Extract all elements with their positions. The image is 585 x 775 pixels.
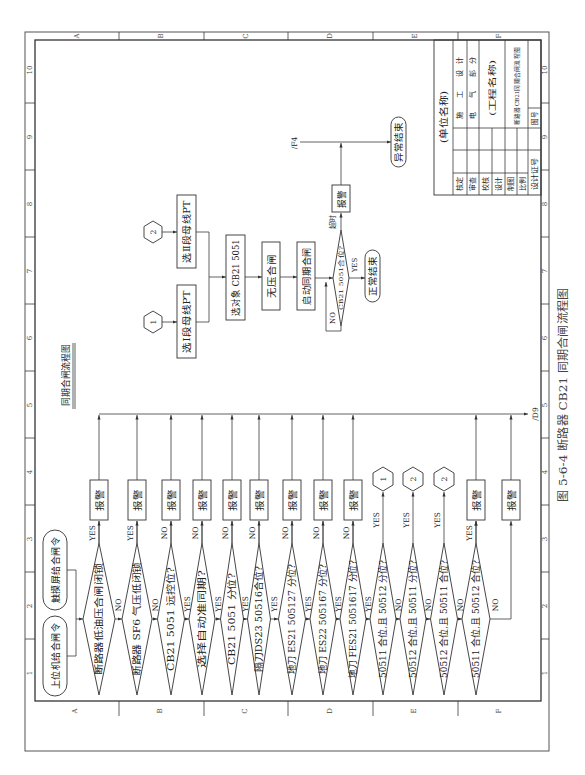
drawing-number-label: 图号 [531, 112, 539, 125]
zone-number: 9 [541, 135, 549, 139]
chain-connector-hexagons: 1 2 2 [373, 467, 454, 491]
branch-label: NO [424, 599, 433, 612]
zone-letter: E [411, 33, 419, 38]
exit-label: YES [372, 512, 381, 529]
zone-number: 4 [541, 469, 549, 474]
zone-number: 5 [26, 403, 34, 407]
decision-text: 地刀 ES22 505167 分位? [317, 564, 328, 674]
zone-number: 10 [26, 66, 34, 75]
zone-letter: E [410, 708, 418, 713]
decision-text: 50512 合位,且 50511 合位? [438, 560, 449, 678]
start-nodes: 上位机给合闸令 触摸屏给合闸令 [43, 530, 83, 696]
zone-letter: B [157, 33, 165, 38]
branch-label: NO [491, 599, 500, 612]
branch-label: YES [334, 596, 343, 613]
decision-text: 隔刀DS23 50516合位? [253, 566, 264, 672]
branch-label: YES [304, 596, 313, 613]
zone-number: 3 [26, 537, 34, 541]
select-object-label: 选对象 CB21 5051 [230, 240, 241, 316]
branch-label: NO [114, 599, 123, 612]
zone-number: 8 [541, 202, 549, 206]
zone-strip-left: 10 9 8 7 6 5 4 3 2 1 [25, 66, 35, 676]
alarm-collector: /D9 [99, 407, 540, 480]
exit-label: NO [191, 527, 200, 540]
sign-row-label: 审查 [468, 177, 477, 191]
discipline: 电 气 部分 [468, 57, 477, 119]
zone-strip-bottom: A B C D E F [71, 701, 503, 716]
sign-row-label: 比例 [518, 177, 527, 191]
zone-strip-top: A B C D E F [73, 32, 503, 40]
zone-number: 9 [26, 135, 34, 139]
zone-number: 10 [541, 66, 549, 75]
alarm-box-label: 报警 [132, 489, 143, 511]
decision-text: 地刀 FES21 5051617 分位? [347, 560, 358, 678]
org-name: (单位名称) [438, 91, 449, 143]
start-sync-close-label: 启动同期合闸 [301, 247, 312, 305]
alarm-box-label: 报警 [197, 489, 208, 511]
design-stage: 施 工 设计 [455, 57, 464, 119]
alarm-box-label: 报警 [254, 489, 265, 511]
exit-label: NO [312, 527, 321, 540]
zone-number: 8 [26, 202, 34, 206]
pt-sync-flow: 1 选Ⅰ段母线PT 2 选Ⅱ段母线PT 选对象 CB21 5051 无压合闸 启… [144, 117, 406, 358]
exit-label: YES [402, 512, 411, 529]
sign-row-label: 校核 [481, 177, 490, 191]
zone-number: 1 [541, 671, 549, 675]
engineering-drawing-page: A B C D E F A B C D E F 10 9 8 7 6 5 4 3 [0, 0, 585, 775]
sign-row-label: 设计 [494, 177, 503, 191]
exit-label: NO [281, 527, 290, 540]
zone-number: 7 [26, 269, 34, 273]
exit-label: YES [126, 525, 135, 542]
zone-number: 6 [541, 335, 549, 340]
branch-label: YES [270, 596, 279, 613]
abnormal-end-label: 异常结束 [393, 122, 404, 162]
decision-text: 断路器低油压合闸闭锁 [93, 563, 104, 675]
zone-letter: D [326, 33, 334, 39]
title-underline [73, 343, 75, 409]
figure-caption: 图 5-6-4 断路器 CB21 同期合闸流程图 [556, 288, 570, 502]
branch-label: YES [183, 596, 192, 613]
decision-text: 断路器 SF6 气压低闭锁 [131, 562, 142, 676]
alarm-box-label: 报警 [227, 489, 238, 511]
zone-strip-right: 10 9 8 7 6 5 4 3 2 1 [541, 66, 549, 676]
zone-letter: F [495, 708, 503, 713]
zone-number: 6 [26, 335, 34, 340]
zone-letter: A [71, 708, 79, 715]
decision-text: 50512 合位,且 50511 分位? [407, 560, 418, 678]
connector-hexagon-label: 2 [149, 229, 158, 234]
decision-text: 50511 合位,且 50512 分位? [377, 560, 388, 678]
offpage-ref-f4: /F4 [290, 137, 299, 150]
select-bus1-pt-label: 选Ⅰ段母线PT [181, 290, 192, 353]
breaker-closed-decision-text: CB21 5051合位? [337, 246, 345, 310]
branch-label: YES [241, 596, 250, 613]
drawing-title: 同期合闸流程图 [60, 344, 71, 406]
dead-bus-close-label: 无压合闸 [266, 254, 277, 298]
zone-number: 2 [541, 604, 549, 608]
decision-text: CB21 5051 远控位? [165, 567, 176, 671]
exit-label: NO [342, 527, 351, 540]
start-oval-host-label: 上位机给合闸令 [50, 623, 61, 689]
alarm-box-label: 报警 [166, 489, 177, 511]
exit-label: NO [248, 527, 257, 540]
zone-number: 1 [26, 671, 34, 675]
zone-letter: C [241, 708, 249, 713]
alarm-box-label: 报警 [506, 489, 517, 511]
branch-label: YES [364, 596, 373, 613]
branch-label: NO [394, 599, 403, 612]
project-name: (工程名称) [487, 60, 497, 116]
zone-letter: B [156, 708, 164, 713]
zone-letter: F [495, 33, 503, 38]
zone-number: 5 [541, 403, 549, 407]
exit-label: YES [88, 525, 97, 542]
decision-text: CB21 5051 分位? [226, 573, 237, 665]
exit-label: NO [160, 527, 169, 540]
title-block: (单位名称) 核定 审查 校核 设计 制图 比例 设计证号 施 工 设计 电 气… [434, 40, 541, 195]
connector-hexagon-label: 1 [379, 477, 388, 482]
branch-label: NO [151, 599, 160, 612]
alarm-box-label: 报警 [287, 489, 298, 511]
decision-text: 地刀 ES21 505127 分位? [286, 564, 297, 674]
yes-label: YES [351, 258, 359, 274]
normal-end-label: 正常结束 [367, 256, 378, 296]
sign-row-label: 设计证号 [530, 158, 539, 190]
drawing-name: 断路器CB21同期合闸流程图 [513, 47, 521, 125]
